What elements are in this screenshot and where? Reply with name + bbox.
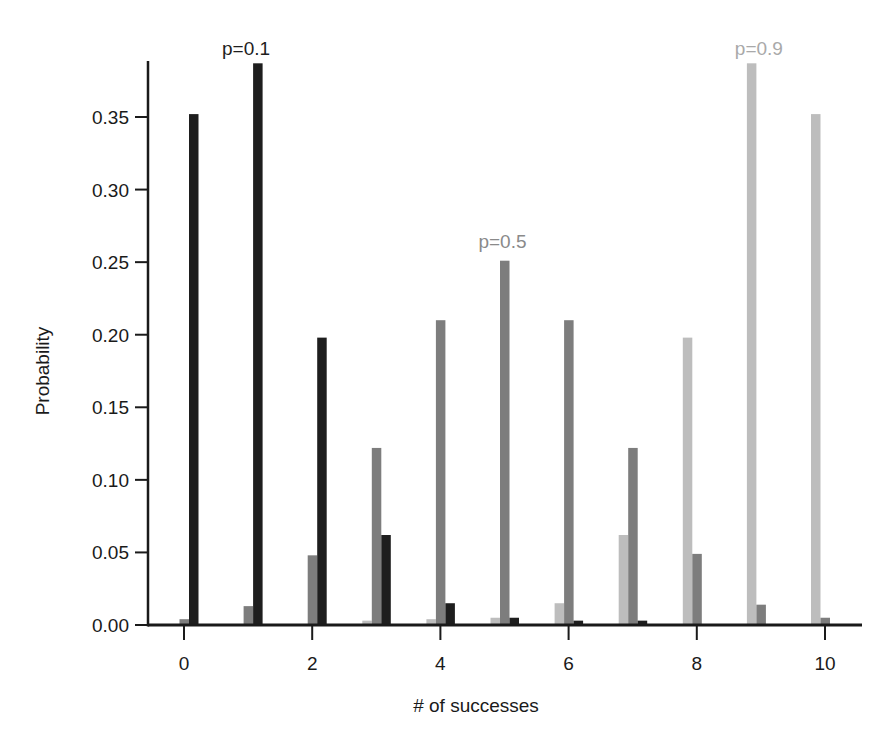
series-p-0-5 [180, 261, 831, 625]
series-label: p=0.9 [735, 38, 783, 59]
y-tick-label: 0.30 [92, 180, 129, 201]
bar [244, 606, 254, 625]
x-tick-label: 8 [692, 653, 703, 674]
series-annotations: p=0.1p=0.5p=0.9 [222, 38, 783, 252]
binomial-bar-chart: 0.000.050.100.150.200.250.300.35 0246810… [0, 0, 893, 743]
y-tick-label: 0.05 [92, 542, 129, 563]
series-label: p=0.5 [478, 231, 526, 252]
bars-layer [180, 63, 831, 625]
series-label: p=0.1 [222, 38, 270, 59]
x-tick-label: 10 [814, 653, 835, 674]
series-p-0-9 [362, 63, 820, 625]
bar [372, 448, 382, 625]
bar [308, 555, 318, 625]
y-axis: 0.000.050.100.150.200.250.300.35 [92, 61, 148, 636]
bar [500, 261, 510, 625]
y-tick-label: 0.25 [92, 252, 129, 273]
bar [564, 320, 574, 625]
bar [555, 603, 565, 625]
bar [436, 320, 446, 625]
bar [253, 63, 263, 625]
series-p-0-1 [189, 63, 647, 625]
bar [683, 338, 693, 625]
x-tick-label: 2 [307, 653, 318, 674]
y-tick-label: 0.10 [92, 470, 129, 491]
bar [811, 114, 821, 625]
bar [445, 603, 455, 625]
y-tick-label: 0.15 [92, 397, 129, 418]
x-axis-title: # of successes [413, 695, 539, 716]
bar [189, 114, 199, 625]
y-axis-title: Probability [32, 326, 53, 415]
y-tick-label: 0.00 [92, 615, 129, 636]
bar [628, 448, 638, 625]
x-axis: 0246810 [148, 625, 862, 674]
y-tick-label: 0.35 [92, 107, 129, 128]
bar [747, 63, 757, 625]
bar [317, 338, 327, 625]
x-tick-label: 0 [179, 653, 190, 674]
x-tick-label: 6 [563, 653, 574, 674]
y-tick-label: 0.20 [92, 325, 129, 346]
bar [692, 554, 702, 625]
x-tick-label: 4 [435, 653, 446, 674]
bar [756, 605, 766, 625]
bar [381, 535, 391, 625]
bar [619, 535, 629, 625]
